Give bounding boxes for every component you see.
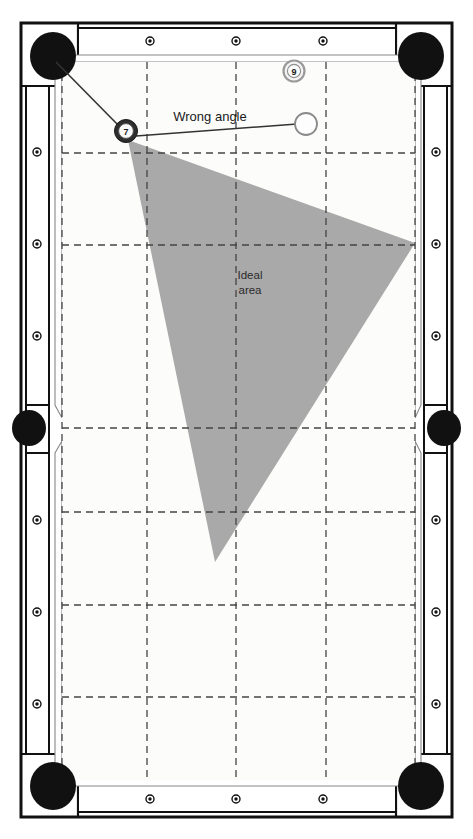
pool-table-diagram: 9 7 Wrong angle Ideal area <box>0 0 473 839</box>
side-pocket-left[interactable] <box>12 410 46 446</box>
diamond-marker <box>33 148 41 156</box>
diamond-marker <box>33 608 41 616</box>
diamond-marker <box>232 37 240 45</box>
diamond-marker <box>432 332 440 340</box>
cushion-nose-left-lower <box>55 441 62 779</box>
seven-ball[interactable]: 7 <box>115 120 138 143</box>
corner-pocket-top-left[interactable] <box>30 32 76 80</box>
diamond-marker <box>146 795 154 803</box>
ideal-area-label-line1: Ideal <box>238 269 263 281</box>
cushion-nose-bottom <box>62 779 413 786</box>
pool-table-svg: 9 7 Wrong angle Ideal area <box>0 0 473 839</box>
diamond-marker <box>319 37 327 45</box>
nine-ball[interactable]: 9 <box>284 61 305 82</box>
diamond-marker <box>146 37 154 45</box>
diamond-marker <box>232 795 240 803</box>
cushion-nose-right-lower <box>415 441 421 779</box>
diamond-marker <box>319 795 327 803</box>
ideal-area-label-line2: area <box>238 284 262 296</box>
diamond-marker <box>432 148 440 156</box>
diamond-marker <box>432 608 440 616</box>
seven-ball-number: 7 <box>123 127 128 137</box>
diamond-marker <box>33 700 41 708</box>
cushion-nose-left-upper <box>55 62 62 418</box>
corner-pocket-bottom-right[interactable] <box>398 762 444 810</box>
cue-ball[interactable] <box>295 113 317 135</box>
diamond-marker <box>432 700 440 708</box>
cushion-nose-right-upper <box>415 62 421 418</box>
cushion-nose-top <box>62 55 413 62</box>
corner-pocket-bottom-left[interactable] <box>30 762 76 810</box>
diamond-marker <box>432 240 440 248</box>
diamond-marker <box>432 516 440 524</box>
corner-pocket-top-right[interactable] <box>398 32 444 80</box>
nine-ball-number: 9 <box>291 67 296 77</box>
wrong-angle-label: Wrong angle <box>173 109 246 124</box>
side-pocket-right[interactable] <box>427 410 461 446</box>
diamond-marker <box>33 516 41 524</box>
diamond-marker <box>33 332 41 340</box>
diamond-marker <box>33 240 41 248</box>
